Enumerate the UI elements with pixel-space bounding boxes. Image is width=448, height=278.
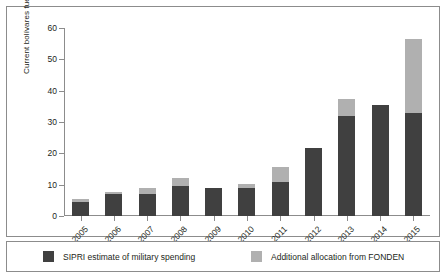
legend-swatch [43,251,54,262]
bar-segment-fonden [172,178,189,186]
legend-item[interactable]: Additional allocation from FONDEN [251,251,404,262]
stacked-bar[interactable] [105,192,122,216]
bar-slot [230,28,263,216]
bar-segment-sipri [72,202,89,216]
bar-segment-sipri [105,194,122,216]
stacked-bar[interactable] [139,188,156,216]
bar-segment-sipri [405,113,422,216]
stacked-bar[interactable] [338,99,355,216]
bar-segment-fonden [272,167,289,181]
bar-slot [363,28,396,216]
stacked-bar[interactable] [205,188,222,216]
bar-slot [297,28,330,216]
bar-segment-fonden [338,99,355,116]
bar-series-group [64,28,430,216]
stacked-bar[interactable] [172,178,189,216]
stacked-bar[interactable] [272,167,289,216]
legend-box: SIPRI estimate of military spendingAddit… [6,241,440,272]
stacked-bar[interactable] [238,184,255,216]
stacked-bar[interactable] [405,39,422,216]
bar-slot [330,28,363,216]
legend-swatch [251,251,262,262]
bar-slot [131,28,164,216]
chart-figure: Current bolívares fuertes b. 01020304050… [0,0,448,278]
bar-segment-sipri [305,148,322,216]
bar-segment-sipri [338,116,355,216]
chart-panel: Current bolívares fuertes b. 01020304050… [6,6,440,237]
plot-area: Current bolívares fuertes b. 01020304050… [64,28,430,216]
stacked-bar[interactable] [305,148,322,216]
bar-slot [264,28,297,216]
bar-slot [197,28,230,216]
bar-segment-sipri [238,188,255,216]
bar-slot [97,28,130,216]
legend-label: Additional allocation from FONDEN [271,252,404,262]
legend-item[interactable]: SIPRI estimate of military spending [43,251,195,262]
bar-slot [64,28,97,216]
legend-label: SIPRI estimate of military spending [63,252,195,262]
bar-segment-sipri [205,188,222,216]
bar-segment-sipri [139,194,156,216]
bar-segment-sipri [272,182,289,216]
bar-segment-fonden [405,39,422,113]
legend: SIPRI estimate of military spendingAddit… [7,242,439,271]
stacked-bar[interactable] [372,105,389,216]
bar-segment-sipri [172,186,189,216]
bar-segment-sipri [372,105,389,216]
stacked-bar[interactable] [72,199,89,216]
bar-slot [397,28,430,216]
bar-slot [164,28,197,216]
